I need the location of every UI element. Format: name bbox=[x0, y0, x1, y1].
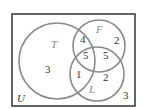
region-T-F: 4 bbox=[80, 33, 86, 45]
label-F: F bbox=[95, 23, 103, 35]
label-L: L bbox=[88, 83, 95, 95]
region-F-L: 5 bbox=[103, 49, 109, 61]
venn-diagram: T F L U 3 4 2 5 5 1 2 3 bbox=[0, 0, 147, 109]
label-T: T bbox=[51, 38, 58, 50]
region-L-only: 2 bbox=[103, 71, 109, 83]
region-T-only: 3 bbox=[45, 63, 51, 75]
region-F-only: 2 bbox=[114, 34, 120, 46]
region-T-L: 1 bbox=[76, 68, 82, 80]
label-U: U bbox=[17, 92, 26, 104]
region-T-F-L: 5 bbox=[83, 49, 89, 61]
region-outside: 3 bbox=[123, 89, 129, 101]
